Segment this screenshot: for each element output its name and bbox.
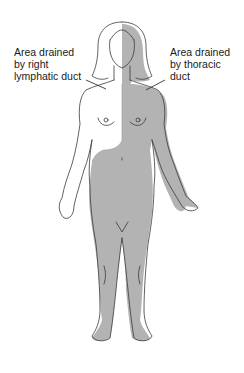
label-line: by thoracic — [170, 58, 230, 70]
right-lymphatic-duct-label: Area drained by right lymphatic duct — [14, 46, 81, 82]
label-line: duct — [170, 70, 230, 82]
thoracic-duct-label: Area drained by thoracic duct — [170, 46, 230, 82]
label-line: lymphatic duct — [14, 70, 81, 82]
label-line: Area drained — [14, 46, 81, 58]
label-line: Area drained — [170, 46, 230, 58]
left-pointer-line — [86, 80, 106, 89]
label-line: by right — [14, 58, 81, 70]
lymphatic-drainage-figure: Area drained by right lymphatic duct Are… — [0, 0, 244, 373]
